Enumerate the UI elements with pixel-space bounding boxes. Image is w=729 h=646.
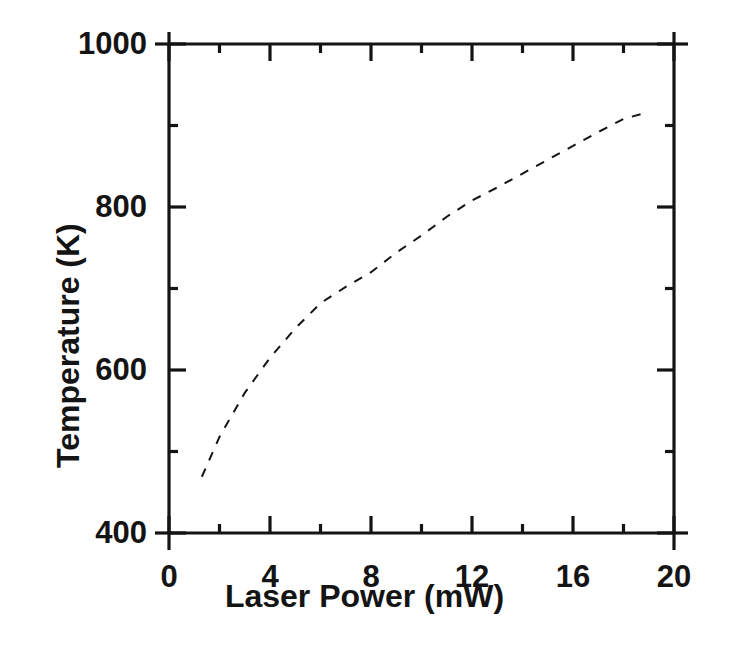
axis-ticks bbox=[155, 32, 688, 550]
data-series-group bbox=[202, 113, 644, 476]
axes-frame bbox=[169, 44, 674, 533]
series-line-0 bbox=[202, 113, 644, 476]
y-tick-label-400: 400 bbox=[0, 515, 147, 551]
figure-container: 4006008001000 048121620 Laser Power (mW)… bbox=[0, 0, 729, 646]
y-tick-label-800: 800 bbox=[0, 189, 147, 225]
y-axis-title: Temperature (K) bbox=[50, 223, 87, 468]
y-tick-label-1000: 1000 bbox=[0, 26, 147, 62]
x-axis-title: Laser Power (mW) bbox=[0, 578, 729, 615]
